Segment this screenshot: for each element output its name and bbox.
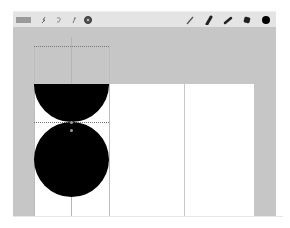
adjustments-icon[interactable] [39,15,49,25]
transform-handle[interactable] [70,121,73,124]
gallery-button[interactable]: 图库 [16,17,31,23]
top-toolbar: 图库 [13,11,276,27]
brush-icon[interactable] [184,15,196,25]
disc-shape[interactable] [34,122,109,197]
toolbar-left-group: 图库 [16,15,92,25]
canvas-area[interactable] [13,27,276,216]
page-guide-line [184,84,185,216]
bottom-divider [13,216,283,217]
layers-icon[interactable] [241,15,253,25]
drawing-app: 图库 [13,11,276,216]
smudge-icon[interactable] [203,15,215,25]
eraser-icon[interactable] [222,15,234,25]
toolbar-right-group [177,15,272,25]
transform-icon[interactable] [69,15,79,25]
rotation-handle[interactable] [70,129,73,132]
selection-icon[interactable] [54,15,64,25]
settings-circle-icon[interactable] [84,16,92,24]
color-swatch-icon[interactable] [260,15,272,25]
